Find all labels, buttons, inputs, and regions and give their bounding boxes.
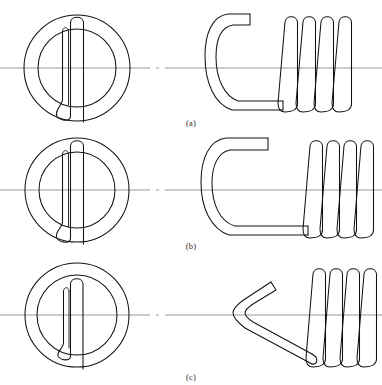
panel-a-drawing: [0, 0, 382, 130]
panel-caption-a: (a): [0, 118, 382, 128]
panel-b-drawing: [0, 128, 382, 253]
panel-a: (a): [0, 0, 382, 130]
end-view-a: [24, 15, 130, 122]
panel-caption-c: (c): [0, 372, 382, 382]
coil-body-a: [278, 17, 352, 112]
panel-caption-b: (b): [0, 241, 382, 251]
side-view-a: [205, 14, 352, 112]
coil-body-b: [303, 141, 374, 238]
coil-body-c: [306, 269, 377, 367]
figure-root: (a): [0, 0, 382, 385]
side-view-c: [233, 269, 377, 367]
panel-b: (b): [0, 128, 382, 253]
panel-c: (c): [0, 252, 382, 385]
end-view-b: [25, 138, 129, 244]
side-view-b: [201, 138, 374, 238]
end-view-c: [25, 263, 129, 369]
panel-c-drawing: [0, 252, 382, 385]
